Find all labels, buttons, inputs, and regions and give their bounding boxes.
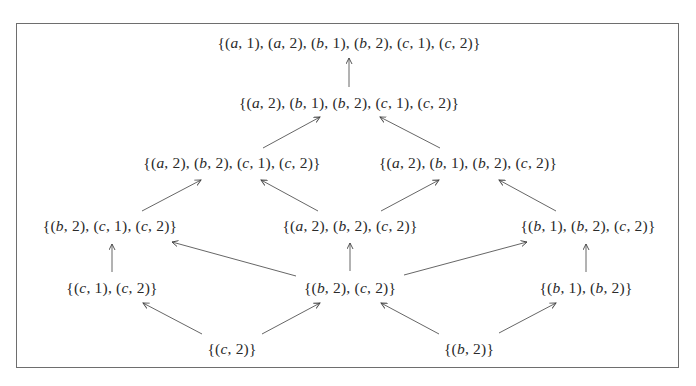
- edges-layer: [0, 0, 696, 386]
- arrow-n_1R-to-n_2M: [381, 303, 439, 334]
- arrow-n_1R-to-n_2R: [499, 303, 556, 333]
- node-n_3L: {(b, 2), (c, 1), (c, 2)}: [43, 218, 177, 234]
- node-n_4L: {(a, 2), (b, 2), (c, 1), (c, 2)}: [143, 155, 320, 171]
- node-n_2M: {(b, 2), (c, 2)}: [304, 280, 396, 296]
- arrow-n_1L-to-n_2L: [143, 303, 202, 334]
- node-n_2L: {(c, 1), (c, 2)}: [66, 280, 157, 296]
- arrow-n_3L-to-n_4L: [142, 180, 201, 211]
- arrow-n_3M-to-n_4R: [381, 180, 439, 211]
- node-n_all: {(a, 1), (a, 2), (b, 1), (b, 2), (c, 1),…: [217, 35, 480, 51]
- node-n_4R: {(a, 2), (b, 1), (b, 2), (c, 2)}: [379, 155, 557, 171]
- arrow-n_3M-to-n_4L: [261, 180, 318, 211]
- arrow-n_4L-to-n_5: [263, 117, 320, 148]
- arrow-n_2M-to-n_3R: [404, 242, 527, 275]
- node-n_1L: {(c, 2)}: [207, 341, 256, 357]
- arrow-n_1L-to-n_2M: [262, 303, 320, 334]
- arrow-n_3R-to-n_4R: [499, 180, 556, 211]
- arrow-n_2M-to-n_3L: [172, 242, 296, 276]
- node-n_3R: {(b, 1), (b, 2), (c, 2)}: [520, 218, 655, 234]
- node-n_3M: {(a, 2), (b, 2), (c, 2)}: [282, 218, 417, 234]
- arrow-n_4R-to-n_5: [380, 117, 440, 148]
- node-n_2R: {(b, 1), (b, 2)}: [539, 280, 632, 296]
- node-n_5: {(a, 2), (b, 1), (b, 2), (c, 1), (c, 2)}: [239, 95, 459, 111]
- node-n_1R: {(b, 2)}: [444, 341, 494, 357]
